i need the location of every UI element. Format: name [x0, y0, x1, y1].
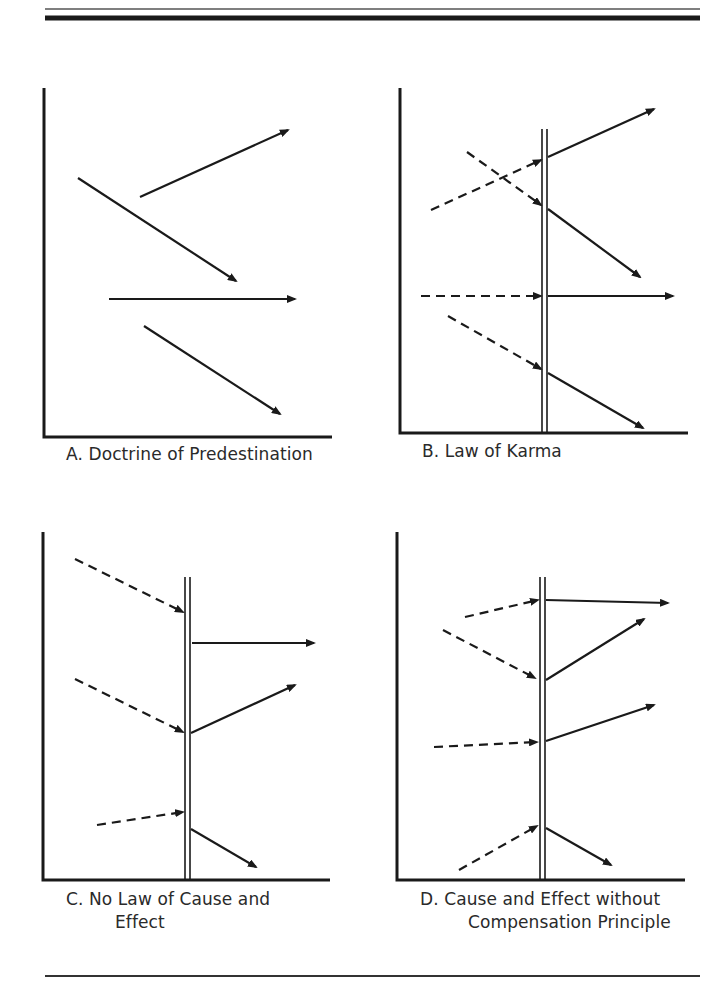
axes: [43, 532, 330, 880]
panel-a: [44, 88, 332, 437]
solid-arrow: [144, 326, 280, 414]
solid-arrow: [546, 600, 668, 603]
caption-panel-b-line1: B. Law of Karma: [422, 441, 562, 461]
dashed-arrow: [459, 826, 537, 870]
solid-arrow: [140, 130, 288, 197]
dashed-arrow: [75, 679, 183, 732]
caption-panel-a: A. Doctrine of Predestination: [66, 444, 313, 464]
caption-panel-c-line2: Effect: [66, 911, 270, 934]
caption-panel-a-line1: A. Doctrine of Predestination: [66, 444, 313, 464]
solid-arrow: [546, 619, 644, 680]
panel-c: [43, 532, 330, 880]
dashed-arrow: [443, 630, 535, 678]
solid-arrow: [78, 178, 236, 281]
caption-panel-d-line1: D. Cause and Effect without: [420, 888, 671, 911]
dashed-arrow: [467, 152, 541, 205]
solid-arrow: [191, 685, 295, 733]
dashed-arrow: [75, 559, 183, 612]
solid-arrow: [546, 705, 654, 741]
caption-panel-d-line2: Compensation Principle: [420, 911, 671, 934]
dashed-arrow: [434, 742, 537, 747]
diagram-canvas: [0, 0, 727, 986]
axes: [400, 88, 688, 433]
caption-panel-c-line1: C. No Law of Cause and: [66, 888, 270, 911]
panel-d: [397, 532, 685, 880]
caption-panel-b: B. Law of Karma: [422, 441, 562, 461]
solid-arrow: [546, 828, 611, 865]
dashed-arrow: [431, 160, 541, 210]
dashed-arrow: [465, 600, 538, 617]
caption-panel-d: D. Cause and Effect without Compensation…: [420, 888, 671, 934]
dashed-arrow: [97, 812, 183, 825]
solid-arrow: [548, 209, 640, 277]
diagram-panels: [43, 88, 688, 880]
caption-panel-c: C. No Law of Cause and Effect: [66, 888, 270, 934]
page-rules: [45, 9, 700, 976]
solid-arrow: [548, 109, 654, 157]
panel-b: [400, 88, 688, 433]
axes: [44, 88, 332, 437]
solid-arrow: [548, 373, 643, 428]
axes: [397, 532, 685, 880]
solid-arrow: [191, 829, 256, 867]
dashed-arrow: [448, 316, 541, 369]
